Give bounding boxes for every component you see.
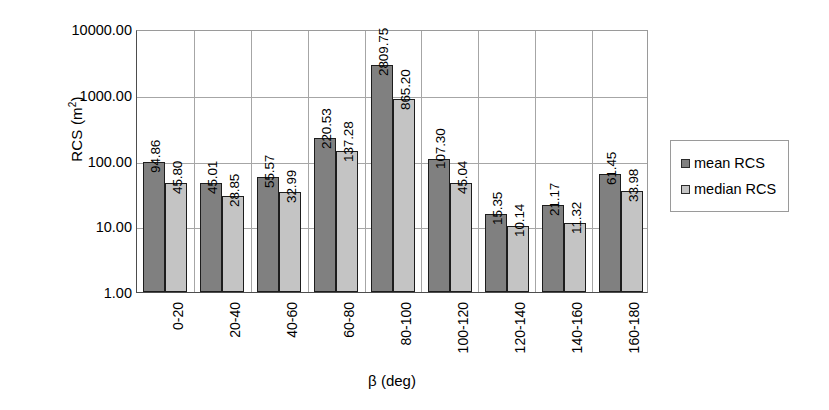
bar-mean [542,205,564,292]
y-axis-tick-labels: 10000.001000.00100.0010.001.00 [0,0,132,410]
x-axis-tick-label: 80-100 [399,302,413,346]
x-axis-tick-label: 20-40 [228,302,242,338]
bar-group: 61.4533.98 [592,31,649,292]
y-axis-tick-label: 1.00 [6,286,132,300]
y-axis-tick-label: 100.00 [6,155,132,169]
y-axis-tick-label: 10000.00 [6,23,132,37]
bar-value-label: 865.20 [399,69,412,110]
legend-swatch-icon [681,159,690,168]
bar-value-label: 15.35 [491,192,504,225]
bar-value-label: 45.80 [171,161,184,194]
legend-swatch-icon [681,185,690,194]
bar-value-label: 10.14 [513,204,526,237]
x-axis-tick-label: 140-160 [570,302,584,353]
x-axis-title: β (deg) [136,372,648,389]
bar-mean [314,138,336,292]
bar-median [450,183,472,292]
bar-value-label: 45.01 [206,161,219,194]
bar-value-label: 2809.75 [377,28,390,76]
bar-mean [257,177,279,292]
bar-median [393,99,415,292]
x-axis-tick-label: 0-20 [171,302,185,330]
legend-item-label: mean RCS [694,155,765,171]
bar-median [279,192,301,292]
bar-value-label: 45.04 [456,161,469,194]
bar-group: 220.53137.28 [308,31,365,292]
bar-median [165,183,187,292]
legend-item: mean RCS [681,150,776,176]
bar-value-label: 21.17 [548,183,561,216]
bar-mean [485,214,507,292]
x-axis-tick-label: 160-180 [627,302,641,353]
bar-value-label: 220.53 [320,108,333,149]
plot-area: 94.8645.8045.0128.8555.5732.99220.53137.… [136,30,648,293]
bar-group: 45.0128.85 [194,31,251,292]
bar-group: 21.1711.32 [535,31,592,292]
bar-value-label: 107.30 [434,129,447,170]
bar-mean [371,65,393,292]
bar-value-label: 33.98 [627,169,640,202]
bar-mean [428,159,450,293]
x-axis-tick-label: 40-60 [285,302,299,338]
bar-median [222,196,244,292]
legend-item-label: median RCS [694,181,776,197]
bar-value-label: 32.99 [285,170,298,203]
x-axis-tick-label: 120-140 [513,302,527,353]
rcs-bar-chart-figure: RCS (m2) 10000.001000.00100.0010.001.00 … [0,0,829,410]
bar-value-label: 137.28 [342,122,355,163]
bar-value-label: 94.86 [149,140,162,173]
x-axis-tick-label: 60-80 [342,302,356,338]
x-axis-tick-label: 100-120 [456,302,470,353]
bar-value-label: 28.85 [228,174,241,207]
bar-group: 107.3045.04 [421,31,478,292]
bar-group: 2809.75865.20 [365,31,422,292]
chart-legend: mean RCSmedian RCS [670,140,789,212]
y-axis-tick-label: 10.00 [6,220,132,234]
bar-group: 15.3510.14 [478,31,535,292]
bar-median [336,151,358,292]
bar-mean [599,174,621,292]
bar-value-label: 55.57 [263,155,276,188]
bar-value-label: 11.32 [570,201,583,233]
y-axis-tick-label: 1000.00 [6,89,132,103]
bar-mean [200,183,222,292]
bar-value-label: 61.45 [605,152,618,185]
bar-mean [143,162,165,292]
legend-item: median RCS [681,176,776,202]
bar-group: 55.5732.99 [251,31,308,292]
bar-median [621,191,643,292]
bar-group: 94.8645.80 [137,31,194,292]
